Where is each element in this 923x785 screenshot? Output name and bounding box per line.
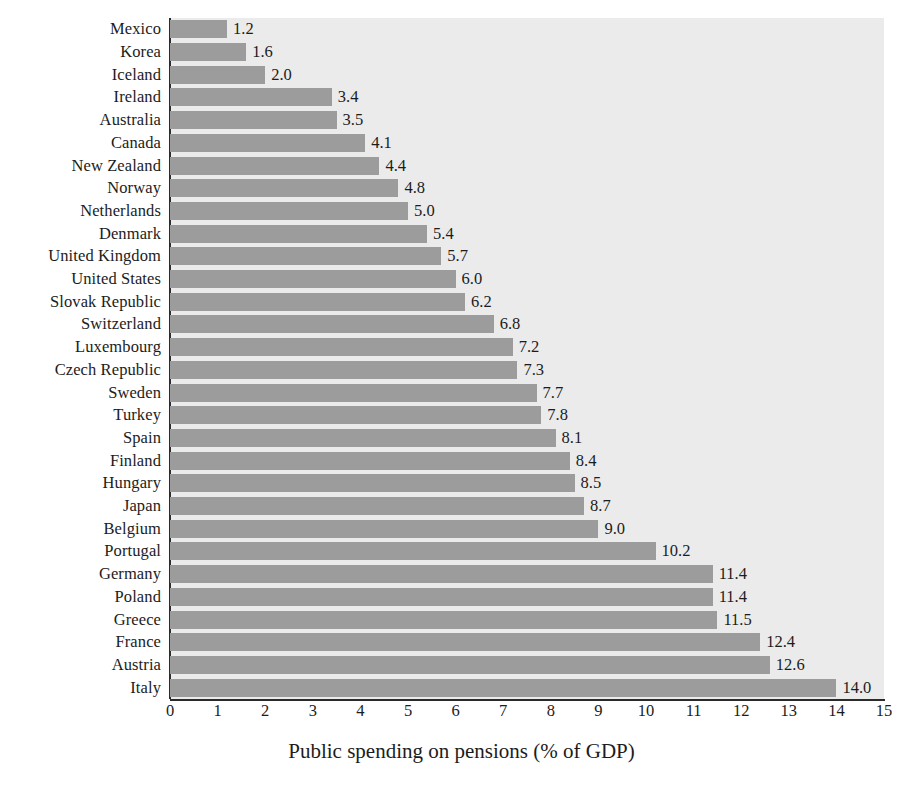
bar-row: Netherlands5.0: [0, 200, 923, 223]
bar-value-label: 6.2: [471, 293, 492, 310]
bar-row: Iceland2.0: [0, 63, 923, 86]
x-tick-label: 11: [686, 703, 702, 720]
category-label: Luxembourg: [75, 339, 161, 356]
bar: [170, 611, 717, 629]
category-label: Belgium: [103, 520, 161, 537]
bar-row: Norway4.8: [0, 177, 923, 200]
bar-row: Turkey7.8: [0, 404, 923, 427]
bar-row: Korea1.6: [0, 41, 923, 64]
category-label: Sweden: [108, 384, 161, 401]
bar-value-label: 7.7: [543, 384, 564, 401]
bar: [170, 429, 556, 447]
bar-value-label: 10.2: [662, 543, 691, 560]
category-label: Mexico: [110, 21, 161, 38]
bar-row: Mexico1.2: [0, 18, 923, 41]
bar-value-label: 8.1: [562, 430, 583, 447]
category-label: Japan: [123, 498, 161, 515]
bar-value-label: 11.4: [719, 589, 747, 606]
category-label: Portugal: [104, 543, 161, 560]
bar-row: Greece11.5: [0, 608, 923, 631]
bar: [170, 202, 408, 220]
bar: [170, 588, 713, 606]
bar: [170, 43, 246, 61]
category-label: Greece: [114, 611, 161, 628]
x-tick-label: 7: [499, 703, 507, 720]
bar-value-label: 3.5: [343, 112, 364, 129]
bar-row: Italy14.0: [0, 676, 923, 699]
bar-value-label: 7.2: [519, 339, 540, 356]
category-label: Finland: [110, 452, 161, 469]
x-tick-label: 14: [828, 703, 845, 720]
bar: [170, 406, 541, 424]
bar-row: Hungary8.5: [0, 472, 923, 495]
bar-row: New Zealand4.4: [0, 154, 923, 177]
bar-value-label: 12.6: [776, 657, 805, 674]
bar-value-label: 11.4: [719, 566, 747, 583]
bar-row: Belgium9.0: [0, 517, 923, 540]
category-label: Germany: [99, 566, 161, 583]
bar-value-label: 7.3: [523, 362, 544, 379]
bar: [170, 179, 398, 197]
category-label: Spain: [123, 430, 161, 447]
category-label: Australia: [100, 112, 161, 129]
bar: [170, 338, 513, 356]
bar-value-label: 14.0: [842, 679, 871, 696]
bar-row: Japan8.7: [0, 495, 923, 518]
category-label: Austria: [112, 657, 161, 674]
x-tick-label: 8: [547, 703, 555, 720]
category-label: Turkey: [113, 407, 161, 424]
bar: [170, 565, 713, 583]
x-tick-label: 10: [638, 703, 655, 720]
bar: [170, 225, 427, 243]
cropped-text-fragment: [0, 0, 923, 4]
category-label: Ireland: [114, 89, 161, 106]
bar: [170, 384, 537, 402]
bar-rows-container: Mexico1.2Korea1.6Iceland2.0Ireland3.4Aus…: [0, 18, 923, 699]
category-label: Italy: [130, 679, 161, 696]
bar-row: United States6.0: [0, 268, 923, 291]
category-label: Hungary: [103, 475, 161, 492]
bar-row: Sweden7.7: [0, 381, 923, 404]
category-label: Canada: [111, 135, 161, 152]
bar: [170, 520, 598, 538]
bar-row: Czech Republic7.3: [0, 359, 923, 382]
bar: [170, 474, 575, 492]
bar: [170, 88, 332, 106]
bar-row: Switzerland6.8: [0, 313, 923, 336]
bar: [170, 134, 365, 152]
bar-row: Spain8.1: [0, 427, 923, 450]
bar-value-label: 1.2: [233, 21, 254, 38]
category-label: Netherlands: [80, 203, 161, 220]
bar: [170, 247, 441, 265]
category-label: Denmark: [99, 225, 161, 242]
x-tick-label: 9: [594, 703, 602, 720]
bar-value-label: 5.7: [447, 248, 468, 265]
bar-value-label: 8.7: [590, 498, 611, 515]
category-label: Norway: [107, 180, 161, 197]
bar-row: Australia3.5: [0, 109, 923, 132]
category-label: United Kingdom: [48, 248, 161, 265]
x-axis-tick-labels: 0123456789101112131415: [0, 701, 923, 727]
bar-row: Poland11.4: [0, 586, 923, 609]
bar-row: United Kingdom5.7: [0, 245, 923, 268]
bar: [170, 20, 227, 38]
bar-row: Portugal10.2: [0, 540, 923, 563]
bar-value-label: 9.0: [604, 520, 625, 537]
category-label: France: [116, 634, 162, 651]
x-tick-label: 3: [309, 703, 317, 720]
bar-value-label: 5.4: [433, 225, 454, 242]
category-label: New Zealand: [71, 157, 161, 174]
category-label: Slovak Republic: [50, 293, 161, 310]
bar-row: Slovak Republic6.2: [0, 290, 923, 313]
bar-row: France12.4: [0, 631, 923, 654]
bar-row: Luxembourg7.2: [0, 336, 923, 359]
category-label: Iceland: [112, 66, 161, 83]
bar-value-label: 12.4: [766, 634, 795, 651]
category-label: Korea: [120, 44, 161, 61]
bar-value-label: 1.6: [252, 44, 273, 61]
bar-value-label: 5.0: [414, 203, 435, 220]
bar: [170, 679, 836, 697]
bar: [170, 361, 517, 379]
bar-value-label: 8.5: [581, 475, 602, 492]
category-label: Switzerland: [81, 316, 161, 333]
